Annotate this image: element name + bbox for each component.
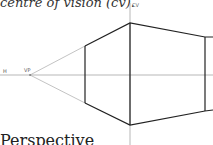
perspective-diagram: H VP CV bbox=[0, 0, 213, 145]
shape-bottom-edge bbox=[85, 103, 213, 125]
shape-top-edge bbox=[85, 23, 213, 46]
vanishing-point-marker bbox=[29, 74, 31, 76]
horizon-label: H bbox=[3, 68, 7, 74]
vp-label: VP bbox=[24, 67, 30, 73]
construction-ray-bottom bbox=[30, 75, 85, 103]
construction-ray-top bbox=[30, 46, 85, 75]
cv-label: CV bbox=[132, 2, 139, 8]
caption-bottom: Perspective bbox=[0, 131, 94, 145]
